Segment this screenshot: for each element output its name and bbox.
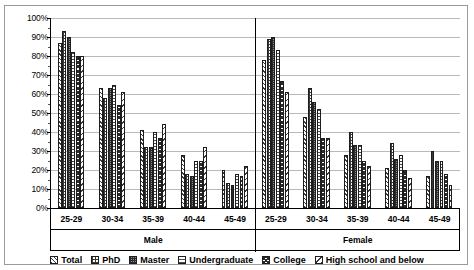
- bar-group: [140, 18, 167, 208]
- bar: [153, 132, 157, 208]
- bar: [144, 147, 148, 208]
- bar-group: [426, 18, 453, 208]
- bar: [58, 43, 62, 208]
- y-axis-tick-mark: [47, 132, 50, 133]
- legend-label: College: [273, 255, 306, 265]
- bar-group: [303, 18, 330, 208]
- bar: [440, 161, 444, 209]
- y-axis-minor-tick: [48, 180, 50, 181]
- group-axis-label: Female: [256, 230, 461, 251]
- group-axis-label: Male: [51, 230, 256, 251]
- bar: [76, 56, 80, 208]
- bar: [71, 52, 75, 208]
- y-axis-tick-label: 10%: [32, 185, 48, 194]
- chart-legend: TotalPhDMasterUndergraduateCollegeHigh s…: [0, 252, 474, 268]
- bar: [185, 174, 189, 208]
- bar: [199, 161, 203, 209]
- bar: [385, 168, 389, 208]
- bar: [149, 147, 153, 208]
- y-axis-minor-tick: [48, 123, 50, 124]
- legend-swatch-icon: [91, 256, 99, 264]
- category-axis-label: 45-49: [215, 208, 256, 230]
- panel-divider-line: [255, 208, 256, 252]
- y-axis-tick-mark: [47, 113, 50, 114]
- bar-group: [262, 18, 289, 208]
- y-axis-minor-tick: [48, 85, 50, 86]
- bar: [67, 37, 71, 208]
- bar: [231, 185, 235, 208]
- bar: [262, 60, 266, 208]
- y-axis-minor-tick: [48, 66, 50, 67]
- bar: [349, 132, 353, 208]
- bar: [103, 98, 107, 208]
- y-axis-minor-tick: [48, 47, 50, 48]
- bar-group: [344, 18, 371, 208]
- legend-item: High school and below: [315, 255, 424, 265]
- bar: [117, 105, 121, 208]
- category-axis-label: 40-44: [174, 208, 215, 230]
- bar: [140, 130, 144, 208]
- bar: [240, 176, 244, 208]
- category-axis-label: 25-29: [256, 208, 297, 230]
- y-axis-minor-tick: [48, 199, 50, 200]
- category-axis-label: 35-39: [133, 208, 174, 230]
- y-axis-tick-label: 40%: [32, 128, 48, 137]
- y-axis-tick-labels: 100%90%80%70%60%50%40%30%20%10%0%: [8, 18, 48, 208]
- bar-group: [222, 18, 249, 208]
- bar: [390, 143, 394, 208]
- bar: [162, 124, 166, 208]
- bars-layer: [51, 18, 460, 208]
- bar: [326, 138, 330, 208]
- bar: [344, 155, 348, 208]
- legend-label: Total: [61, 255, 82, 265]
- bar: [285, 92, 289, 208]
- bar: [158, 138, 162, 208]
- plot-area: [51, 18, 460, 208]
- bar: [121, 92, 125, 208]
- category-axis-label: 45-49: [419, 208, 460, 230]
- y-axis-tick-mark: [47, 151, 50, 152]
- bar: [244, 166, 248, 208]
- bar: [190, 176, 194, 208]
- y-axis-tick-label: 20%: [32, 166, 48, 175]
- category-axis-label: 30-34: [296, 208, 337, 230]
- y-axis-tick-mark: [47, 170, 50, 171]
- bar: [317, 109, 321, 208]
- bar: [80, 56, 84, 208]
- bar-group: [385, 18, 412, 208]
- bar-chart: 100%90%80%70%60%50%40%30%20%10%0% 25-293…: [0, 0, 474, 270]
- y-axis-tick-label: 70%: [32, 71, 48, 80]
- legend-item: Undergraduate: [178, 255, 253, 265]
- bar: [403, 170, 407, 208]
- bar: [394, 159, 398, 208]
- category-axis-label: 40-44: [378, 208, 419, 230]
- bar-group: [181, 18, 208, 208]
- legend-swatch-icon: [315, 256, 323, 264]
- bar: [108, 88, 112, 208]
- legend-item: Master: [129, 255, 169, 265]
- bar: [280, 81, 284, 208]
- bar: [99, 88, 103, 208]
- bar: [321, 138, 325, 208]
- y-axis-tick-mark: [47, 75, 50, 76]
- legend-label: PhD: [102, 255, 120, 265]
- y-axis-tick-mark: [47, 94, 50, 95]
- category-axis-label: 35-39: [337, 208, 378, 230]
- legend-label: High school and below: [326, 255, 424, 265]
- bar: [444, 174, 448, 208]
- bar: [431, 151, 435, 208]
- category-axis-label: 30-34: [92, 208, 133, 230]
- bar: [267, 39, 271, 208]
- y-axis-tick-mark: [47, 37, 50, 38]
- bar: [194, 161, 198, 209]
- y-axis-tick-label: 100%: [27, 14, 48, 23]
- legend-label: Master: [140, 255, 169, 265]
- y-axis-minor-tick: [48, 28, 50, 29]
- y-axis-tick-label: 30%: [32, 147, 48, 156]
- bar: [426, 176, 430, 208]
- legend-item: College: [262, 255, 306, 265]
- y-axis-tick-label: 80%: [32, 52, 48, 61]
- y-axis-tick-label: 60%: [32, 90, 48, 99]
- bar: [303, 117, 307, 208]
- y-axis-minor-tick: [48, 161, 50, 162]
